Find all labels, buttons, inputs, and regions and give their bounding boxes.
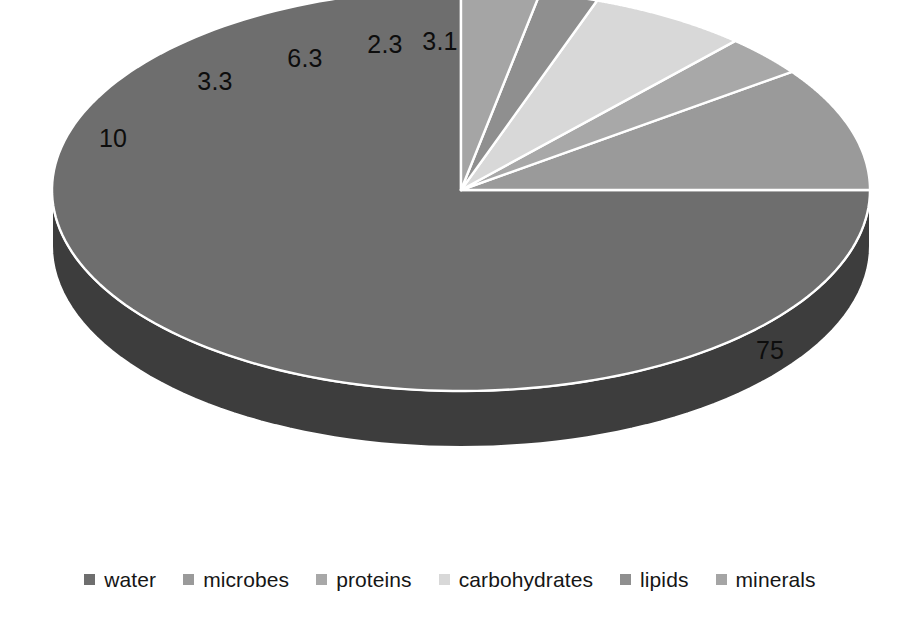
- legend-item-microbes[interactable]: microbes: [183, 569, 289, 590]
- legend-item-minerals[interactable]: minerals: [716, 569, 816, 590]
- slice-value-label-carbohydrates: 6.3: [287, 44, 322, 72]
- legend-swatch-water: [84, 574, 95, 585]
- chart-legend: watermicrobesproteinscarbohydrateslipids…: [0, 560, 900, 619]
- pie-chart-figure: 75103.36.32.33.1 watermicrobesproteinsca…: [0, 0, 900, 619]
- pie-top-surface: [52, 0, 870, 391]
- legend-item-carbohydrates[interactable]: carbohydrates: [439, 569, 593, 590]
- legend-label-lipids: lipids: [640, 569, 688, 590]
- legend-swatch-microbes: [183, 574, 194, 585]
- legend-item-lipids[interactable]: lipids: [620, 569, 688, 590]
- legend-label-carbohydrates: carbohydrates: [459, 569, 593, 590]
- legend-swatch-lipids: [620, 574, 631, 585]
- slice-value-label-water: 75: [756, 336, 784, 364]
- legend-swatch-carbohydrates: [439, 574, 450, 585]
- slice-value-label-minerals: 3.1: [422, 27, 457, 55]
- slice-value-label-proteins: 3.3: [197, 67, 232, 95]
- legend-swatch-proteins: [316, 574, 327, 585]
- legend-label-minerals: minerals: [736, 569, 816, 590]
- legend-label-microbes: microbes: [203, 569, 289, 590]
- legend-label-proteins: proteins: [336, 569, 412, 590]
- legend-swatch-minerals: [716, 574, 727, 585]
- slice-value-label-microbes: 10: [99, 124, 127, 152]
- legend-item-water[interactable]: water: [84, 569, 156, 590]
- slice-value-label-lipids: 2.3: [367, 30, 402, 58]
- legend-label-water: water: [104, 569, 156, 590]
- legend-item-proteins[interactable]: proteins: [316, 569, 412, 590]
- pie-chart-canvas: 75103.36.32.33.1: [0, 0, 900, 560]
